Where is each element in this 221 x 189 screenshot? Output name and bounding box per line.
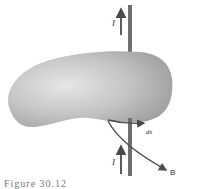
b-field-curve <box>108 121 166 170</box>
b-field-label: B <box>170 168 175 177</box>
current-label-top: I <box>111 18 116 28</box>
current-label-bottom: I <box>111 157 116 167</box>
closed-surface <box>8 51 172 127</box>
surface-current-diagram: I ds B I <box>0 0 221 189</box>
figure-caption: Figure 30.12 <box>4 178 67 189</box>
ds-label: ds <box>146 128 153 136</box>
